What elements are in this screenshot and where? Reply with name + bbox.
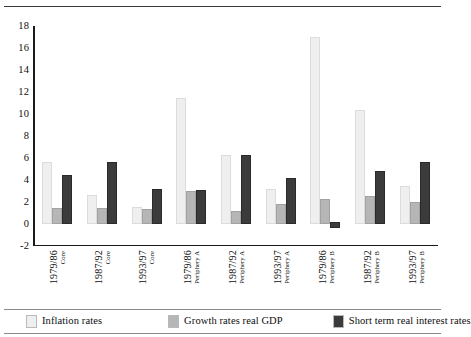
- bar-slot: [97, 26, 107, 246]
- bar-group: [80, 26, 125, 246]
- x-category-region: Core: [60, 251, 67, 264]
- x-category-region: Periphery A: [194, 251, 201, 284]
- bar[interactable]: [330, 222, 340, 228]
- x-category-period: 1979/86: [183, 250, 193, 284]
- legend-label: Short term real interest rates: [349, 316, 471, 327]
- y-tick-label: 16: [18, 43, 29, 54]
- legend-label: Growth rates real GDP: [184, 316, 283, 327]
- x-category: 1987/92Core: [80, 250, 125, 306]
- bar-group: [169, 26, 214, 246]
- bar-slot: [176, 26, 186, 246]
- bar[interactable]: [286, 178, 296, 224]
- bar[interactable]: [107, 162, 117, 225]
- bar-group: [35, 26, 80, 246]
- bar-slot: [142, 26, 152, 246]
- bar-slot: [330, 26, 340, 246]
- bar-slot: [196, 26, 206, 246]
- bar-slot: [365, 26, 375, 246]
- bar[interactable]: [266, 189, 276, 224]
- x-category-region: Periphery B: [419, 251, 426, 284]
- bar-slot: [52, 26, 62, 246]
- x-category: 1979/86Periphery A: [170, 250, 215, 306]
- x-category-period: 1979/86: [318, 250, 328, 284]
- bar[interactable]: [62, 175, 72, 224]
- x-category-region: Periphery B: [374, 251, 381, 284]
- x-category-period: 1987/92: [94, 250, 104, 284]
- bar-slot: [87, 26, 97, 246]
- y-tick-label: 10: [18, 109, 29, 120]
- y-tick-label: 8: [24, 131, 29, 142]
- bar[interactable]: [196, 190, 206, 224]
- bar-group: [392, 26, 437, 246]
- bar-slot: [375, 26, 385, 246]
- bar-slot: [186, 26, 196, 246]
- bar-slot: [355, 26, 365, 246]
- bar-slot: [42, 26, 52, 246]
- plot-area: 181614121086420-2: [33, 26, 437, 246]
- legend-item[interactable]: Growth rates real GDP: [168, 315, 283, 328]
- bar[interactable]: [320, 199, 330, 224]
- bar-slot: [310, 26, 320, 246]
- bar-slot: [286, 26, 296, 246]
- bar-slot: [107, 26, 117, 246]
- bar[interactable]: [142, 209, 152, 224]
- bar[interactable]: [310, 37, 320, 224]
- legend-swatch-icon: [333, 315, 344, 328]
- x-category: 1979/86Core: [35, 250, 80, 306]
- legend-swatch-icon: [26, 315, 37, 328]
- bar[interactable]: [241, 155, 251, 224]
- y-tick-label: 6: [24, 153, 29, 164]
- bar-groups: [35, 26, 437, 246]
- x-category-region: Core: [105, 251, 112, 264]
- bar-slot: [410, 26, 420, 246]
- bar[interactable]: [87, 195, 97, 225]
- bar[interactable]: [410, 202, 420, 224]
- x-category: 1987/92Periphery A: [215, 250, 260, 306]
- bar[interactable]: [52, 208, 62, 224]
- bar[interactable]: [221, 155, 231, 224]
- legend-item[interactable]: Short term real interest rates: [333, 315, 471, 328]
- y-tick-label: 12: [18, 87, 29, 98]
- bar[interactable]: [276, 204, 286, 224]
- bar-group: [214, 26, 259, 246]
- x-category-region: Periphery A: [239, 251, 246, 284]
- x-category-period: 1993/97: [138, 250, 148, 284]
- bar[interactable]: [231, 211, 241, 224]
- bar-slot: [320, 26, 330, 246]
- x-axis-category-labels: 1979/86Core1987/92Core1993/97Core1979/86…: [35, 250, 439, 306]
- bar[interactable]: [132, 207, 142, 224]
- bar-group: [124, 26, 169, 246]
- bar-group: [303, 26, 348, 246]
- x-category-period: 1979/86: [49, 250, 59, 284]
- bar[interactable]: [186, 191, 196, 224]
- bar[interactable]: [400, 186, 410, 224]
- bar-slot: [276, 26, 286, 246]
- bar-group: [348, 26, 393, 246]
- bar[interactable]: [420, 162, 430, 225]
- x-category: 1993/97Core: [125, 250, 170, 306]
- bar-slot: [62, 26, 72, 246]
- x-category-period: 1987/92: [228, 250, 238, 284]
- bar-slot: [266, 26, 276, 246]
- x-category: 1993/97Periphery B: [394, 250, 439, 306]
- bar-slot: [241, 26, 251, 246]
- bar[interactable]: [97, 208, 107, 224]
- y-tick-label: 4: [24, 175, 29, 186]
- y-tick-label: 0: [24, 219, 29, 230]
- x-category-region: Periphery A: [284, 251, 291, 284]
- legend-bottom-divider: [4, 333, 441, 334]
- bar[interactable]: [152, 189, 162, 224]
- bar-slot: [152, 26, 162, 246]
- bar[interactable]: [365, 196, 375, 224]
- y-tick-label: 14: [18, 65, 29, 76]
- bar[interactable]: [176, 98, 186, 224]
- bar[interactable]: [355, 110, 365, 224]
- legend-item[interactable]: Inflation rates: [26, 315, 102, 328]
- y-tick-label: 18: [18, 21, 29, 32]
- y-tick-label: 2: [24, 197, 29, 208]
- bar[interactable]: [375, 171, 385, 224]
- bar[interactable]: [42, 162, 52, 225]
- x-category-region: Core: [149, 251, 156, 264]
- x-category-period: 1993/97: [408, 250, 418, 284]
